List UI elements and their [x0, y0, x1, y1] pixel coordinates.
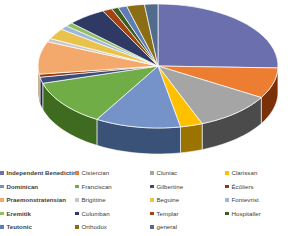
pie-slice[interactable] [158, 4, 278, 68]
legend-swatch-icon [225, 198, 229, 202]
legend-item[interactable]: general [150, 220, 225, 234]
legend-item-label: Cluniac [157, 166, 178, 180]
legend-item[interactable]: Teutonic [0, 220, 75, 234]
legend-item[interactable]: Templar [150, 207, 225, 221]
legend-swatch-icon [75, 225, 79, 229]
legend-item-label: Independent Benedictine [7, 166, 76, 180]
legend-item-label: Hospitaller [232, 207, 261, 221]
legend-item-label: Brigittine [82, 193, 106, 207]
legend-item[interactable]: Orthodox [75, 220, 150, 234]
legend-swatch-icon [150, 171, 154, 175]
legend-swatch-icon [150, 198, 154, 202]
pie-slices [38, 4, 278, 128]
legend-item[interactable]: Hospitaller [225, 207, 295, 221]
legend-swatch-icon [75, 185, 79, 189]
legend-swatch-icon [0, 171, 4, 175]
legend-item[interactable]: Gilbertine [150, 180, 225, 194]
legend-item[interactable]: Cistercian [75, 166, 150, 180]
legend-swatch-icon [225, 185, 229, 189]
legend-item[interactable]: Clarissan [225, 166, 295, 180]
pie-chart-svg [0, 0, 295, 163]
legend-item-label: Franciscan [82, 180, 112, 194]
legend-item[interactable]: Columban [75, 207, 150, 221]
legend-item[interactable]: Eremitik [0, 207, 75, 221]
legend-swatch-icon [150, 225, 154, 229]
legend-item-label: Templar [157, 207, 179, 221]
legend-item-label: general [157, 220, 178, 234]
legend-item[interactable]: Dominican [0, 180, 75, 194]
legend-item[interactable]: Independent Benedictine [0, 166, 75, 180]
legend-item[interactable]: Cluniac [150, 166, 225, 180]
legend-swatch-icon [225, 212, 229, 216]
legend-swatch-icon [0, 212, 4, 216]
legend-swatch-icon [225, 171, 229, 175]
legend-item-label: Gilbertine [157, 180, 184, 194]
legend-swatch-icon [75, 171, 79, 175]
legend-swatch-icon [75, 212, 79, 216]
legend-item[interactable]: Beguine [150, 193, 225, 207]
legend-item-label: Praemonstratensian [7, 193, 67, 207]
legend-swatch-icon [75, 198, 79, 202]
legend-item-label: Teutonic [7, 220, 32, 234]
legend-item-label: Fontevrist [232, 193, 259, 207]
pie-chart-figure: Independent BenedictineDominicanPraemons… [0, 0, 295, 236]
legend-item-label: Beguine [157, 193, 180, 207]
legend-item[interactable]: Franciscan [75, 180, 150, 194]
legend-swatch-icon [150, 212, 154, 216]
legend-swatch-icon [0, 198, 4, 202]
legend-item[interactable]: Praemonstratensian [0, 193, 75, 207]
chart-legend: Independent BenedictineDominicanPraemons… [0, 166, 295, 236]
legend-item-label: Écôliers [232, 180, 254, 194]
legend-item[interactable]: Brigittine [75, 193, 150, 207]
legend-item[interactable]: Écôliers [225, 180, 295, 194]
legend-item[interactable]: Fontevrist [225, 193, 295, 207]
pie-slice-side [180, 124, 202, 153]
legend-swatch-icon [0, 225, 4, 229]
legend-item-label: Clarissan [232, 166, 258, 180]
legend-swatch-icon [0, 185, 4, 189]
legend-item-label: Cistercian [82, 166, 110, 180]
legend-item-label: Dominican [7, 180, 39, 194]
legend-swatch-icon [150, 185, 154, 189]
legend-item-label: Eremitik [7, 207, 31, 221]
legend-item-label: Columban [82, 207, 110, 221]
chart-plot-area [0, 0, 295, 163]
legend-item-label: Orthodox [82, 220, 107, 234]
